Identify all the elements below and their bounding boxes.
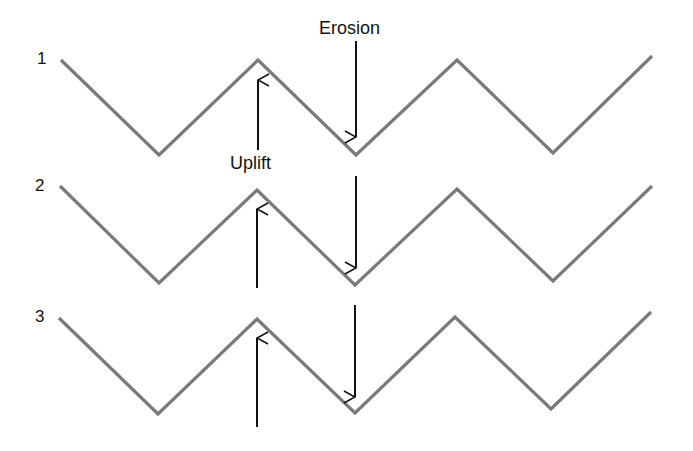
row-number-2: 2	[35, 176, 44, 196]
erosion-label: Erosion	[319, 18, 380, 39]
row-1	[61, 41, 652, 155]
uplift-label: Uplift	[230, 153, 271, 174]
row-2	[60, 176, 652, 288]
uplift-erosion-diagram	[0, 0, 693, 451]
row-3	[59, 305, 651, 427]
row-number-1: 1	[37, 49, 46, 69]
row-number-3: 3	[35, 307, 44, 327]
